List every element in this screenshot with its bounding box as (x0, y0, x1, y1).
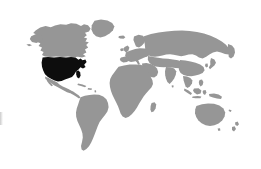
region-hispaniola (88, 88, 92, 90)
region-new-zealand (235, 122, 239, 126)
region-iberian-peninsula (120, 56, 130, 62)
region-kamchatka (228, 44, 235, 59)
region-china (179, 60, 205, 76)
region-scandinavia (133, 35, 145, 48)
region-central-america (69, 90, 81, 99)
region-canada (33, 23, 90, 57)
world-map-container (0, 0, 261, 169)
region-lesser-antilles (94, 90, 96, 92)
region-madagascar (150, 102, 156, 112)
region-south-america (76, 94, 109, 150)
region-sulawesi (203, 90, 207, 95)
region-sumatra (184, 88, 192, 95)
region-sri-lanka (172, 85, 174, 87)
left-edge-artifact (0, 112, 3, 125)
region-cuba (77, 84, 86, 88)
region-aleutian-islands (26, 44, 32, 46)
region-borneo (193, 88, 201, 94)
region-japan (209, 58, 216, 69)
region-philippines (199, 80, 204, 87)
region-tasmania (218, 128, 221, 131)
region-russia (144, 31, 230, 59)
region-ireland (120, 48, 124, 51)
region-africa (110, 64, 153, 118)
region-new-guinea (209, 94, 222, 99)
world-map-graphic (0, 0, 261, 169)
region-iceland (118, 36, 125, 39)
region-greenland (91, 20, 114, 38)
region-southeast-asia (183, 76, 192, 88)
region-india (165, 67, 176, 84)
region-new-zealand-south (232, 126, 236, 131)
region-java (192, 96, 201, 98)
region-australia (195, 103, 225, 126)
region-new-caledonia (229, 109, 232, 112)
region-korea (205, 64, 208, 68)
region-florida-highlight (76, 71, 80, 79)
